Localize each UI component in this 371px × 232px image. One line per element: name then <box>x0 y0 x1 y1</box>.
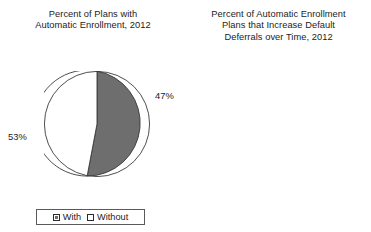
legend-swatch-with-icon <box>53 214 60 221</box>
legend-left-item-with: With <box>53 212 81 222</box>
pie-left-svg <box>44 71 150 177</box>
chart-title-left-line1: Percent of Plans with <box>0 9 186 20</box>
chart-panel-right: Percent of Automatic Enrollment Plans th… <box>186 0 371 232</box>
pie-left-label-without: 53% <box>8 131 27 142</box>
legend-left-label-with: With <box>63 212 81 222</box>
chart-title-right: Percent of Automatic Enrollment Plans th… <box>186 9 371 43</box>
legend-swatch-without-icon <box>87 214 94 221</box>
legend-left-item-without: Without <box>87 212 128 222</box>
chart-title-right-line2: Plans that Increase Default <box>186 20 371 31</box>
chart-title-left-line2: Automatic Enrollment, 2012 <box>0 20 186 31</box>
pie-left-label-with: 47% <box>155 90 174 101</box>
chart-title-left: Percent of Plans with Automatic Enrollme… <box>0 9 186 32</box>
legend-left-label-without: Without <box>97 212 128 222</box>
chart-panel-left: Percent of Plans with Automatic Enrollme… <box>0 0 186 232</box>
chart-title-right-line1: Percent of Automatic Enrollment <box>186 9 371 20</box>
pie-chart-left <box>44 71 150 177</box>
legend-left: With Without <box>36 209 145 225</box>
pie-left-slice-without <box>44 71 97 176</box>
chart-title-right-line3: Deferrals over Time, 2012 <box>186 32 371 43</box>
